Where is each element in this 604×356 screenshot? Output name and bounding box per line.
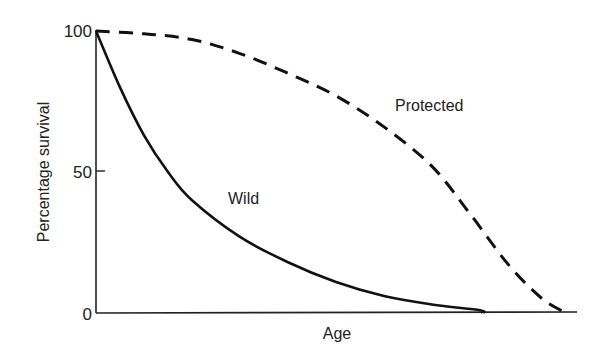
x-axis-label: Age bbox=[323, 325, 352, 342]
wild-curve bbox=[96, 31, 484, 313]
survival-chart: 100 50 0 Percentage survival Age Protect… bbox=[0, 0, 604, 356]
y-axis-label: Percentage survival bbox=[35, 102, 52, 243]
protected-label: Protected bbox=[395, 97, 463, 114]
y-tick-label-50: 50 bbox=[73, 163, 92, 182]
y-tick-label-0: 0 bbox=[83, 305, 92, 324]
wild-label: Wild bbox=[228, 190, 259, 207]
x-axis bbox=[96, 312, 577, 313]
y-tick-label-100: 100 bbox=[64, 22, 92, 41]
